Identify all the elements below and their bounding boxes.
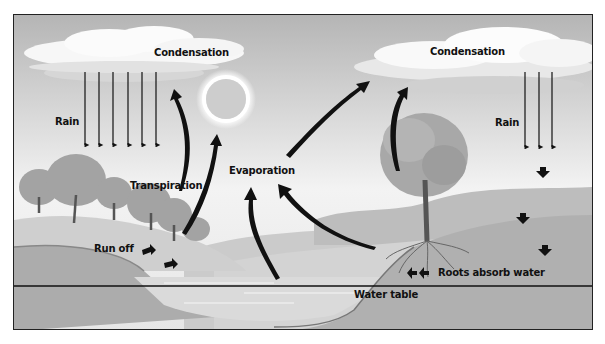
- label-rain-right: Rain: [495, 117, 519, 128]
- sun-icon: [196, 69, 256, 129]
- label-rain-left: Rain: [55, 116, 79, 127]
- label-roots-absorb-water: Roots absorb water: [438, 267, 545, 278]
- label-evaporation: Evaporation: [229, 165, 295, 176]
- water-cycle-diagram: Condensation Condensation Rain Rain Tran…: [13, 14, 593, 330]
- label-condensation-left: Condensation: [154, 47, 229, 58]
- label-transpiration: Transpiration: [130, 180, 202, 191]
- diagram-illustration: [14, 15, 593, 330]
- label-water-table: Water table: [354, 289, 418, 300]
- label-condensation-right: Condensation: [430, 46, 505, 57]
- label-run-off: Run off: [94, 243, 134, 254]
